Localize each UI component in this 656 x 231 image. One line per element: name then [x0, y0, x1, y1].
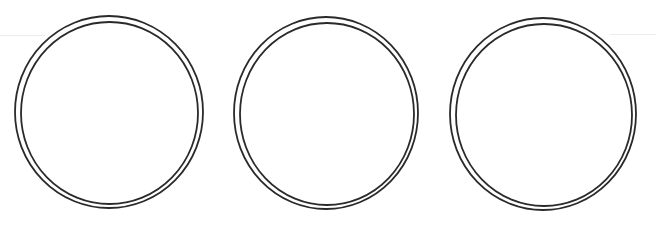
- ring-1-inner-circle: [21, 22, 198, 204]
- ring-3-outer-circle: [450, 18, 636, 210]
- ring-1-outer-circle: [15, 16, 203, 208]
- rings-svg: [0, 0, 656, 231]
- ring-3-inner-circle: [456, 24, 632, 206]
- ring-2: [234, 17, 418, 209]
- diagram-canvas: [0, 0, 656, 231]
- ring-2-inner-circle: [240, 23, 414, 205]
- ring-1: [15, 16, 203, 208]
- ring-2-outer-circle: [234, 17, 418, 209]
- ring-3: [450, 18, 636, 210]
